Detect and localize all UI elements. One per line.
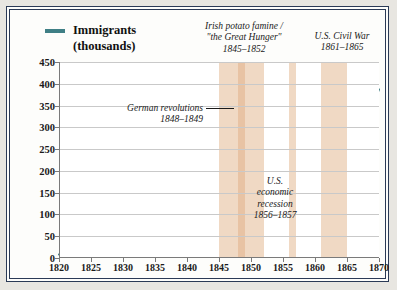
- x-axis-tick-mark: [283, 258, 284, 262]
- chart-legend: Immigrants (thousands): [45, 23, 136, 54]
- y-axis-tick-label: 400: [39, 78, 55, 89]
- y-axis-tick-label: 250: [39, 144, 55, 155]
- y-axis-tick-label: 50: [45, 231, 56, 242]
- y-axis-tick-mark: [55, 62, 59, 63]
- y-axis-tick-mark: [55, 171, 59, 172]
- y-axis-line: [59, 62, 60, 258]
- annotation-irish-famine: Irish potato famine / "the Great Hunger"…: [185, 21, 303, 55]
- x-axis-tick-label: 1835: [145, 262, 165, 273]
- y-axis-tick-mark: [55, 193, 59, 194]
- y-axis-tick-label: 100: [39, 209, 55, 220]
- x-axis-tick-label: 1870: [369, 262, 389, 273]
- gridline: [59, 214, 379, 215]
- annotation-famine-line1: Irish potato famine /: [185, 21, 303, 32]
- x-axis-tick-mark: [155, 258, 156, 262]
- annotation-german-revolutions: German revolutions 1848–1849: [87, 103, 203, 126]
- gridline: [59, 62, 379, 63]
- x-axis-tick-mark: [379, 258, 380, 262]
- annotation-german-line2: 1848–1849: [87, 114, 203, 125]
- annotation-recession-line3: recession: [247, 199, 303, 210]
- x-axis-tick-label: 1830: [113, 262, 133, 273]
- chart-frame: Immigrants (thousands) 05010015020025030…: [6, 6, 389, 282]
- x-axis-tick-mark: [251, 258, 252, 262]
- gridline: [59, 84, 379, 85]
- y-axis-tick-mark: [55, 214, 59, 215]
- x-axis-tick-label: 1860: [305, 262, 325, 273]
- annotation-civil-war: U.S. Civil War 1861–1865: [303, 31, 381, 54]
- x-axis-tick-mark: [315, 258, 316, 262]
- plot-area: 050100150200250300350400450 182018251830…: [59, 62, 379, 258]
- annotation-famine-line2: "the Great Hunger": [185, 32, 303, 43]
- y-axis-tick-label: 450: [39, 57, 55, 68]
- y-axis-tick-label: 200: [39, 165, 55, 176]
- annotation-recession-line1: U.S.: [247, 176, 303, 187]
- x-axis-tick-label: 1850: [241, 262, 261, 273]
- shaded-band: [321, 62, 347, 258]
- annotation-recession-line2: economic: [247, 187, 303, 198]
- annotation-german-line1: German revolutions: [87, 103, 203, 114]
- x-axis-tick-mark: [59, 258, 60, 262]
- shaded-band: [289, 62, 295, 258]
- x-axis-tick-label: 1825: [81, 262, 101, 273]
- legend-label-line2: (thousands): [73, 39, 136, 55]
- chart-canvas: Immigrants (thousands) 05010015020025030…: [7, 7, 390, 283]
- annotation-economic-recession: U.S. economic recession 1856–1857: [247, 176, 303, 222]
- x-axis-tick-label: 1820: [49, 262, 69, 273]
- y-axis-tick-mark: [55, 236, 59, 237]
- y-axis-tick-mark: [55, 127, 59, 128]
- gridline: [59, 236, 379, 237]
- x-axis-tick-label: 1855: [273, 262, 293, 273]
- gridline: [59, 127, 379, 128]
- y-axis-tick-mark: [55, 84, 59, 85]
- shaded-band-inner: [238, 62, 244, 258]
- x-axis-tick-label: 1840: [177, 262, 197, 273]
- x-axis-tick-mark: [91, 258, 92, 262]
- y-axis-tick-label: 150: [39, 187, 55, 198]
- y-axis-tick-mark: [55, 106, 59, 107]
- x-axis-tick-label: 1845: [209, 262, 229, 273]
- x-axis-tick-label: 1865: [337, 262, 357, 273]
- annotation-civilwar-line2: 1861–1865: [303, 42, 381, 53]
- annotation-recession-line4: 1856–1857: [247, 210, 303, 221]
- legend-label-line1: Immigrants: [73, 23, 136, 39]
- x-axis-tick-mark: [347, 258, 348, 262]
- x-axis-tick-mark: [187, 258, 188, 262]
- annotation-german-leader-line: [206, 108, 234, 109]
- legend-label: Immigrants (thousands): [73, 23, 136, 54]
- y-axis-tick-mark: [55, 149, 59, 150]
- x-axis-tick-mark: [219, 258, 220, 262]
- legend-line-swatch: [45, 29, 65, 33]
- annotation-civilwar-line1: U.S. Civil War: [303, 31, 381, 42]
- x-axis-tick-mark: [123, 258, 124, 262]
- gridline: [59, 149, 379, 150]
- annotation-famine-line3: 1845–1852: [185, 44, 303, 55]
- gridline: [59, 171, 379, 172]
- y-axis-tick-label: 350: [39, 100, 55, 111]
- gridline: [59, 193, 379, 194]
- y-axis-tick-label: 300: [39, 122, 55, 133]
